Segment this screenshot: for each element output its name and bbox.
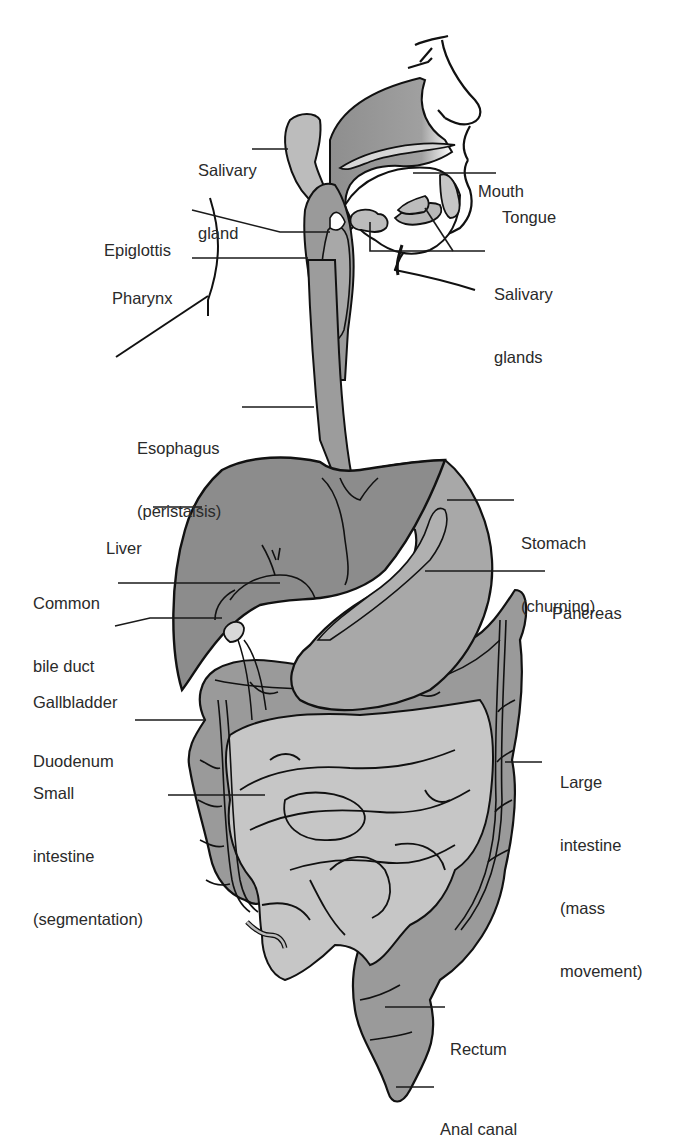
label-rectum: Rectum [450, 997, 507, 1081]
label-tongue: Tongue [502, 165, 556, 249]
label-pharynx: Pharynx [112, 246, 173, 330]
label-anal-canal: Anal canal [440, 1077, 517, 1139]
label-large-intestine: Large intestine (mass movement) [560, 730, 643, 1003]
label-salivary-gland: Salivary gland [198, 118, 257, 265]
label-esophagus: Esophagus (peristalsis) [137, 396, 221, 543]
label-small-intestine: Small intestine (segmentation) [33, 741, 143, 951]
label-liver: Liver [106, 496, 142, 580]
label-salivary-glands: Salivary glands [494, 242, 553, 389]
gallbladder [224, 622, 244, 642]
label-pancreas: Pancreas [552, 561, 622, 645]
